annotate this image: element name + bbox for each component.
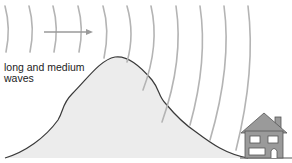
wave-front-4 bbox=[78, 6, 81, 52]
wave-front-10 bbox=[210, 6, 226, 140]
wave-front-2 bbox=[29, 6, 32, 52]
arrow-right-icon bbox=[44, 29, 93, 35]
house-window-bottom bbox=[249, 148, 265, 155]
waves-label-line2: waves bbox=[4, 73, 85, 84]
wave-front-6 bbox=[127, 6, 131, 62]
house-window-right bbox=[268, 136, 278, 143]
waves-label: long and medium waves bbox=[4, 62, 85, 84]
wave-front-3 bbox=[53, 6, 56, 52]
house-door bbox=[271, 149, 277, 159]
wave-front-5 bbox=[103, 6, 107, 58]
house-icon bbox=[241, 113, 287, 158]
wave-front-9 bbox=[190, 6, 202, 125]
house-window-left bbox=[250, 136, 260, 143]
wave-front-1 bbox=[5, 6, 8, 52]
